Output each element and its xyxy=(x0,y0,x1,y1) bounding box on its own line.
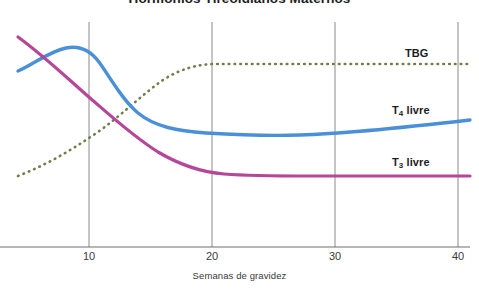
series-label-tbg: TBG xyxy=(405,47,429,59)
series-label-t3-livre: T3 livre xyxy=(392,156,430,168)
x-axis-title: Semanas de gravidez xyxy=(0,270,479,281)
xtick-label-40: 40 xyxy=(443,250,473,262)
chart-figure: Hormônios Tireoidianos Maternos TBG T4 l… xyxy=(0,0,479,292)
t3-label-prefix: T xyxy=(392,156,399,168)
t4-label-suffix: livre xyxy=(403,104,429,116)
chart-plot-area xyxy=(0,0,479,292)
xtick-label-10: 10 xyxy=(74,250,104,262)
t3-label-suffix: livre xyxy=(403,156,429,168)
t4-label-subscript: 4 xyxy=(399,109,404,118)
xtick-label-20: 20 xyxy=(197,250,227,262)
series-line-t4-livre xyxy=(18,47,470,135)
t4-label-prefix: T xyxy=(392,104,399,116)
series-label-t4-livre: T4 livre xyxy=(392,104,430,116)
xtick-label-30: 30 xyxy=(320,250,350,262)
t3-label-subscript: 3 xyxy=(399,161,404,170)
